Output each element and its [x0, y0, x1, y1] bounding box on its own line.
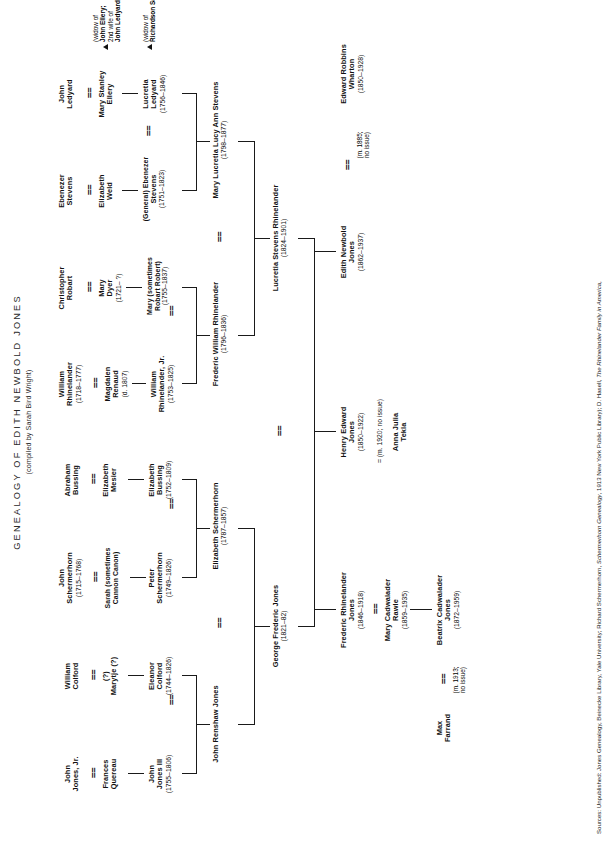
marriage-symbol-jones3-eleanor: =: [168, 694, 177, 705]
name-line-1: Elizabeth Schermerhorn: [212, 456, 220, 596]
node-general-ebenezer-stevens: (General) Ebenezer Stevens (1751–1823): [142, 130, 166, 248]
node-mary-dyer: Mary Dyer (1721– ?): [98, 238, 122, 338]
marriage-symbol-stevens-weld: =: [86, 184, 95, 195]
name-line-2: Renaud: [112, 334, 120, 434]
bracket-arm-renshaw: [238, 724, 254, 725]
genealogy-chart-page: GENEALOGY OF EDITH NEWBOLD JONES (compil…: [0, 0, 612, 845]
name-line-2: Weld: [106, 141, 114, 241]
bracket-drop-marylucretia: [196, 141, 210, 142]
name-line-1: George Frederic Jones: [272, 562, 280, 690]
connector-colford: [128, 675, 144, 676]
marriage-note-line-2: no issue): [459, 650, 466, 710]
name-line-2: Jones: [348, 190, 356, 314]
name-line-1: Frederic William Rhinelander: [212, 256, 220, 412]
node-frederic-rhinelander-jones: Frederic Rhinelander Jones (1846–1918): [340, 548, 364, 672]
marriage-symbol-jones-quereau: =: [90, 767, 99, 778]
bracket-arm-wmrhine: [182, 383, 196, 384]
bracket-arm-lucretia: [298, 238, 314, 239]
marriage-symbol-beatrix-max: =: [440, 673, 449, 684]
bracket-drop-lucretiastevens: [254, 238, 270, 239]
node-marytje: (?) Marytje (?): [102, 626, 119, 726]
node-john-jones-jr: John Jones, Jr.: [64, 724, 81, 824]
node-christopher-robart: Christopher Robart: [58, 238, 75, 338]
bracket-drop-eschermerhorn: [196, 528, 210, 529]
marriage-symbol-bussing-mesier: =: [90, 473, 99, 484]
node-william-rhinelander-jr: William Rhinelander, Jr. (1753–1825): [150, 332, 174, 436]
marriage-symbol-frederic-mary: =: [372, 603, 381, 614]
dates: (1756–1846): [159, 44, 167, 144]
marriage-symbol-stevens-ledyard: =: [145, 125, 154, 136]
sources-note: Sources: Unpublished: Jones Genealogy, B…: [595, 281, 602, 834]
bracket-arm-lucretialedyard: [182, 93, 196, 94]
bracket-drop-fwrhinelander: [196, 335, 210, 336]
marriage-symbol-peter-ebussing: =: [168, 498, 177, 509]
bracket-bar-stevens-ledyard: [196, 93, 197, 191]
dates: (1859–1935): [401, 548, 409, 672]
node-henry-edward-jones: Henry Edward Jones (1850–1922): [340, 370, 364, 494]
name-line-2: Dyer: [106, 238, 114, 338]
dates: (1850–1922): [357, 370, 365, 494]
connector-jones: [128, 773, 144, 774]
rotated-chart-wrapper: GENEALOGY OF EDITH NEWBOLD JONES (compil…: [6, 8, 604, 836]
widow-marker-icon-ellery: [103, 44, 108, 50]
bracket-arm-fwr: [238, 335, 254, 336]
name-line-2: Farrand: [444, 686, 452, 770]
dates: (1850–1928): [357, 12, 365, 136]
node-eleanor-colford: Eleanor Colford (1744–1826): [148, 626, 172, 726]
node-william-rhinelander: William Rhinelander (1718–1777): [58, 334, 82, 434]
name-line-2: Cannon Canon): [112, 520, 120, 636]
name-line-2: Bussing: [72, 430, 80, 530]
sources-suffix: ,: [595, 281, 602, 283]
sources-italic-1: Schermerhorn Genealogy: [595, 494, 602, 564]
name-line-2: Rhinelander: [66, 334, 74, 434]
marriage-note-line-2: no issue): [363, 110, 370, 180]
marriage-symbol-renshaw-elizabeth: =: [216, 617, 225, 628]
dates: (1796–1836): [220, 256, 228, 412]
marriage-symbol-robart-dyer: =: [86, 281, 95, 292]
widow-marker-icon-sands: [147, 44, 152, 50]
widow-note-sands: (widow of Richardson Sands): [142, 0, 157, 42]
genealogy-chart-canvas: GENEALOGY OF EDITH NEWBOLD JONES (compil…: [6, 8, 604, 836]
connector-bussing: [128, 479, 144, 480]
name-line-2: Colford: [72, 626, 80, 726]
marriage-symbol-fwr-marylucretia: =: [216, 231, 225, 242]
node-magdalen-renaud: Magdalen Renaud (d. 1807): [104, 334, 128, 434]
connector-schermerhorn: [130, 577, 146, 578]
node-sarah-cannon: Sarah (sometimes Cannon Canon): [104, 520, 119, 636]
dates: (1787–1857): [220, 456, 228, 596]
name-line-2: Mesier: [110, 430, 118, 530]
marriage-note-beatrix-max: (m. 1913; no issue): [452, 650, 467, 710]
node-elizabeth-mesier: Elizabeth Mesier: [102, 430, 119, 530]
sources-middle: , 1913 New York Public Library); D. Hase…: [595, 378, 602, 495]
chart-title-block: GENEALOGY OF EDITH NEWBOLD JONES (compil…: [12, 8, 33, 836]
connector-rhinelander: [132, 383, 146, 384]
name-line-2: Jones: [348, 370, 356, 494]
node-elizabeth-weld: Elizabeth Weld: [98, 141, 115, 241]
name-line-2: Ledyard: [66, 44, 74, 144]
widow-note-ellery: (widow of John Ellery; 2nd wife of John …: [92, 0, 121, 42]
name-line-2: Ellery: [106, 44, 114, 144]
marriage-symbol-george-lucretia: =: [276, 425, 285, 436]
bracket-arm-ebussing: [182, 479, 196, 480]
bracket-arm-peter: [182, 577, 196, 578]
marriage-symbol-ledyard-ellery: =: [86, 87, 95, 98]
bracket-arm-elizsch: [238, 528, 254, 529]
dates: (1749–1826): [165, 526, 173, 630]
dates: (1715–1768): [75, 526, 83, 630]
name-line-2: Robart: [66, 238, 74, 338]
dates: (1824–1901): [280, 160, 288, 316]
marriage-note-text: = (m. 1920; no issue): [376, 358, 384, 504]
node-elizabeth-schermerhorn: Elizabeth Schermerhorn (1787–1857): [212, 456, 228, 596]
marriage-symbol-wmrhine-robart: =: [168, 305, 177, 316]
name-line-2: Colford: [156, 626, 164, 726]
dates: (d. 1807): [121, 334, 129, 434]
node-elizabeth-bussing: Elizabeth Bussing (1752–1809): [148, 430, 172, 530]
dates: (1752–1809): [165, 430, 173, 530]
node-john-renshaw-jones: John Renshaw Jones: [212, 658, 220, 790]
node-abraham-bussing: Abraham Bussing: [64, 430, 81, 530]
node-max-farrand: Max Farrand: [436, 686, 453, 770]
marriage-note-henry-anna: = (m. 1920; no issue): [376, 358, 384, 504]
widow-note-line-2: John Ellery;: [99, 0, 106, 42]
name-line-2: Stevens: [66, 141, 74, 241]
name-line-2: Wharton: [348, 12, 356, 136]
